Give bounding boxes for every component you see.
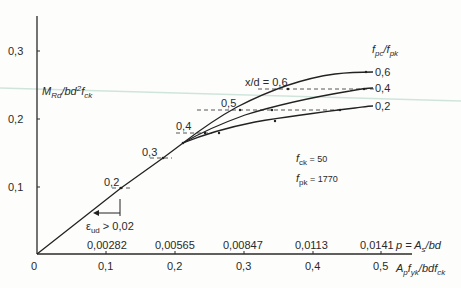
arrow-left-icon [93, 210, 99, 216]
xd-label-0-3: 0,3 [142, 146, 157, 158]
x-axis-label: Apfyk/bdfck [395, 262, 446, 277]
x-tick-label: 0,4 [305, 260, 320, 272]
x-tick-label: 0,3 [236, 260, 251, 272]
series-line-0-2 [183, 106, 373, 143]
svg-text:p = As/bd: p = As/bd [395, 239, 442, 254]
origin-label: 0 [31, 260, 37, 272]
x-secondary-tick-label: 0,00847 [223, 239, 263, 251]
legend-label-0-4: 0,4 [375, 82, 390, 94]
xd-label-0-2: 0,2 [104, 176, 119, 188]
strain-limit-label: εud > 0,02 [86, 220, 134, 235]
y-tick-label: 0,2 [8, 113, 23, 125]
y-tick-label: 0,1 [8, 181, 23, 193]
svg-text:MRd/bd2fck: MRd/bd2fck [42, 84, 93, 100]
strain-limit-marker [96, 199, 120, 216]
x-secondary-tick-label: 0,00565 [155, 239, 195, 251]
xd-label-0-5: 0,5 [221, 97, 236, 109]
fck-annotation: fck = 50 [296, 152, 327, 167]
x-tick-label: 0,5 [373, 260, 388, 272]
x-secondary-tick-label: 0,00282 [87, 239, 127, 251]
chart-figure: 0,1 0,2 0,3 0 0,1 0,2 0,3 0,4 0,5 0,0028… [0, 0, 461, 288]
x-tick-label: 0,2 [167, 260, 182, 272]
x-secondary-axis-label: p = As/bd [395, 239, 442, 254]
legend-title: fpc/fpk [372, 43, 399, 58]
y-tick-label: 0,3 [8, 45, 23, 57]
x-secondary-tick-label: 0,0141 [360, 239, 394, 251]
xd-label-0-4: 0,4 [176, 120, 191, 132]
series-common-segment [37, 143, 183, 254]
xd-label-0-6: x/d = 0,6 [245, 76, 288, 88]
svg-text:Apfyk/bdfck: Apfyk/bdfck [395, 262, 446, 277]
y-axis-label: MRd/bd2fck [42, 84, 93, 100]
x-tick-label: 0,1 [98, 260, 113, 272]
legend-label-0-2: 0,2 [375, 100, 390, 112]
legend-label-0-6: 0,6 [375, 66, 390, 78]
x-secondary-tick-label: 0,0113 [295, 239, 328, 251]
fpk-annotation: fpk = 1770 [296, 172, 338, 187]
chart-svg: 0,1 0,2 0,3 0 0,1 0,2 0,3 0,4 0,5 0,0028… [0, 0, 461, 288]
